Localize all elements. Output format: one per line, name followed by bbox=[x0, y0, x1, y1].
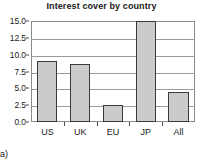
bar-eu bbox=[103, 105, 123, 122]
x-axis-tick-label: EU bbox=[107, 127, 120, 137]
x-axis-tick-mark bbox=[129, 122, 130, 126]
x-axis-tick-label: All bbox=[174, 127, 184, 137]
y-axis-tick-mark bbox=[26, 71, 29, 72]
y-axis-tick-mark bbox=[26, 122, 29, 123]
chart-title: Interest cover by country bbox=[0, 1, 203, 11]
x-axis-ticks bbox=[31, 122, 195, 126]
x-axis-tick-mark bbox=[97, 122, 98, 126]
bars-layer bbox=[31, 21, 195, 122]
y-axis-tick-label: 0.0 bbox=[14, 117, 26, 127]
y-axis-tick-mark bbox=[26, 54, 29, 55]
y-axis-tick-label: 10.0 bbox=[10, 50, 26, 60]
y-axis-tick-label: 12.5 bbox=[10, 33, 26, 43]
y-axis-tick-label: 5.0 bbox=[14, 83, 26, 93]
x-axis-tick-label: UK bbox=[74, 127, 87, 137]
y-axis: 0.02.55.07.510.012.515.0 bbox=[0, 21, 29, 122]
bar-all bbox=[168, 92, 188, 122]
y-axis-tick-label: 15.0 bbox=[10, 16, 26, 26]
y-axis-tick-label: 2.5 bbox=[14, 100, 26, 110]
figure-panel-label: (a) bbox=[0, 149, 8, 159]
y-axis-tick-label: 7.5 bbox=[14, 67, 26, 77]
x-axis: USUKEUJPAll bbox=[31, 127, 195, 141]
x-axis-tick-mark bbox=[64, 122, 65, 126]
bar-uk bbox=[70, 64, 90, 122]
x-axis-tick-mark bbox=[162, 122, 163, 126]
bar-us bbox=[37, 61, 57, 122]
x-axis-tick-label: US bbox=[41, 127, 54, 137]
y-axis-tick-mark bbox=[26, 88, 29, 89]
bar-chart-figure: Interest cover by country 0.02.55.07.510… bbox=[0, 0, 203, 163]
y-axis-tick-mark bbox=[26, 105, 29, 106]
bar-jp bbox=[136, 21, 156, 122]
x-axis-tick-label: JP bbox=[141, 127, 152, 137]
y-axis-tick-mark bbox=[26, 37, 29, 38]
y-axis-tick-mark bbox=[26, 21, 29, 22]
